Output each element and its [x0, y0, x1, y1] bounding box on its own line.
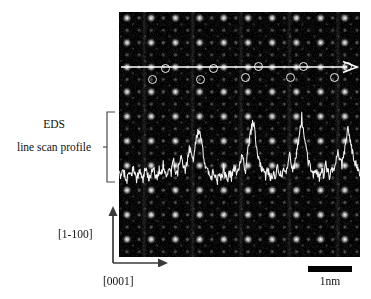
circle-marker-lower [286, 73, 295, 82]
circle-marker-upper [254, 62, 263, 71]
dopant-column-circle-pair [196, 64, 218, 84]
circle-marker-lower [196, 75, 205, 84]
dopant-column-circle-pair [148, 64, 170, 84]
eds-label-line2: line scan profile [8, 141, 100, 153]
eds-line-scan-profile-trace [119, 110, 360, 195]
dopant-column-circle-pair [286, 62, 308, 82]
axis-label-horizontal: [0001] [103, 275, 134, 287]
circle-marker-lower [330, 73, 339, 82]
circle-marker-lower [148, 75, 157, 84]
circle-marker-upper [299, 62, 308, 71]
dopant-column-circle-pair [241, 62, 263, 82]
scale-bar [308, 266, 352, 272]
scale-bar-label: 1nm [308, 275, 352, 287]
crystallographic-axes [103, 203, 171, 267]
dopant-column-circle-pair [330, 62, 352, 82]
eds-profile-label: EDS line scan profile [8, 118, 100, 153]
circle-marker-upper [161, 64, 170, 73]
circle-marker-upper [209, 64, 218, 73]
eds-range-bracket [103, 111, 117, 183]
axis-label-vertical: [1-100] [58, 228, 93, 240]
circle-marker-lower [241, 73, 250, 82]
circle-marker-upper [343, 62, 352, 71]
figure-root: EDS line scan profile [1-100] [0001] 1nm [0, 0, 371, 299]
eds-label-line1: EDS [43, 118, 65, 130]
